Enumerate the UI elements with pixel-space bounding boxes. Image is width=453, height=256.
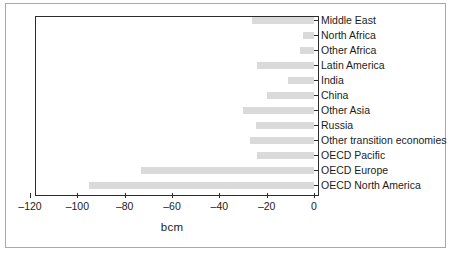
category-label: China [321,88,348,103]
x-axis-title: bcm [161,221,184,233]
category-label: India [321,73,344,88]
x-tick-label: –80 [116,200,134,212]
category-label: Other Africa [321,43,376,58]
figure-frame: Middle EastNorth AfricaOther AfricaLatin… [5,3,446,248]
category-label: Other transition economies [321,133,446,148]
category-label: Latin America [321,58,385,73]
category-label: Russia [321,118,353,133]
x-tick-label: –20 [258,200,276,212]
x-tick-label: –40 [211,200,229,212]
x-tick-mark [30,193,31,198]
plot-area [35,16,319,196]
category-label: Other Asia [321,103,370,118]
category-label: North Africa [321,28,376,43]
x-tick-label: –100 [66,200,89,212]
x-tick-label: –60 [163,200,181,212]
category-label: OECD Europe [321,163,388,178]
x-tick-label: –120 [18,200,41,212]
category-label: OECD North America [321,178,421,193]
x-tick-label: 0 [311,200,317,212]
category-label: Middle East [321,13,376,28]
category-label: OECD Pacific [321,148,385,163]
